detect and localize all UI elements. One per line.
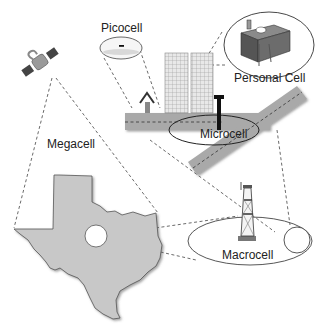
office-buildings-icon [165, 53, 213, 113]
picocell-device-icon [100, 37, 142, 59]
cell-hierarchy-diagram: Picocell Personal Cell Megacell Microcel… [0, 0, 320, 332]
diagram-canvas [0, 0, 320, 332]
macrocell-label: Macrocell [222, 249, 273, 261]
microcell-region-circle [284, 227, 310, 253]
satellite-icon [16, 39, 60, 78]
macrocell-region-circle [85, 225, 107, 247]
picocell-label: Picocell [101, 22, 142, 34]
megacell-label: Megacell [47, 138, 95, 150]
macrocell-tower-icon [238, 182, 256, 241]
house-icon [140, 93, 154, 113]
personal-cell-label: Personal Cell [234, 72, 305, 84]
desk-icon [241, 20, 290, 66]
texas-map [14, 175, 162, 319]
microcell-label: Microcell [200, 128, 247, 140]
